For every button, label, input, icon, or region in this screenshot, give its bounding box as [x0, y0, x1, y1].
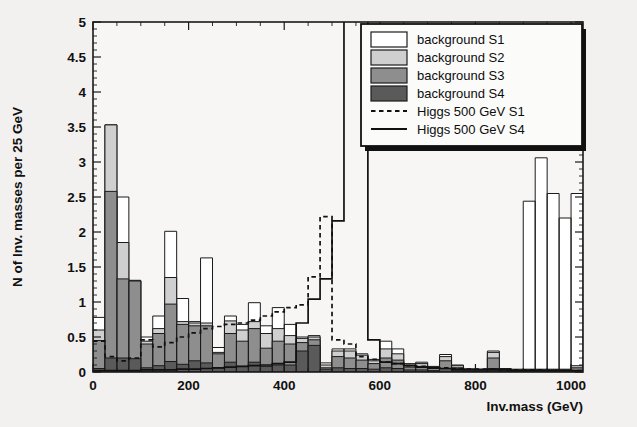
legend-item-label: Higgs 500 GeV S4 [417, 122, 525, 137]
y-tick-label: 4.5 [67, 50, 86, 65]
y-tick-label: 2.5 [67, 190, 86, 205]
x-tick-label: 400 [273, 378, 296, 393]
legend-item[interactable]: background S1 [371, 32, 504, 47]
legend-swatch [371, 68, 407, 83]
x-tick-label: 200 [177, 378, 200, 393]
x-tick-label: 800 [464, 378, 487, 393]
legend-swatch [371, 86, 407, 101]
y-tick-label: 1 [78, 295, 86, 310]
legend-item[interactable]: background S4 [371, 86, 504, 101]
histogram-canvas: 0200400600800100000.511.522.533.544.55In… [0, 0, 637, 427]
legend: background S1background S2background S3b… [361, 24, 586, 151]
y-tick-label: 4 [78, 85, 86, 100]
y-tick-label: 3 [78, 155, 86, 170]
y-tick-label: 0 [78, 365, 86, 380]
legend-item-label: background S2 [417, 50, 504, 65]
y-tick-label: 5 [78, 15, 86, 30]
y-tick-label: 1.5 [67, 260, 86, 275]
y-tick-label: 0.5 [67, 330, 86, 345]
legend-item-label: background S4 [417, 86, 504, 101]
x-tick-label: 1000 [556, 378, 586, 393]
y-axis-title: N of Inv. masses per 25 GeV [10, 107, 25, 287]
chart-figure: 0200400600800100000.511.522.533.544.55In… [0, 0, 637, 427]
legend-swatch [371, 32, 407, 47]
x-axis-title: Inv.mass (GeV) [486, 399, 583, 414]
x-tick-label: 0 [89, 378, 97, 393]
y-tick-label: 2 [78, 225, 86, 240]
legend-item[interactable]: background S3 [371, 68, 504, 83]
legend-item-label: background S1 [417, 32, 504, 47]
y-tick-label: 3.5 [67, 120, 86, 135]
legend-swatch [371, 50, 407, 65]
legend-item-label: Higgs 500 GeV S1 [417, 104, 525, 119]
legend-item-label: background S3 [417, 68, 504, 83]
x-tick-label: 600 [369, 378, 392, 393]
legend-item[interactable]: background S2 [371, 50, 504, 65]
